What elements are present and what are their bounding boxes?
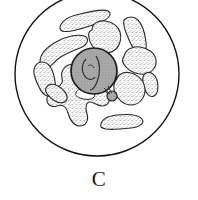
figure-panel: C <box>0 0 198 200</box>
body-worm-bottom-right <box>101 115 143 130</box>
panel-label: C <box>0 166 198 192</box>
cell-diagram <box>0 0 198 172</box>
